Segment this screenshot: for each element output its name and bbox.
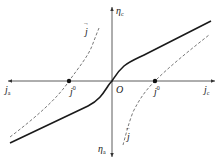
axis-label-eta-a: ηa (98, 143, 106, 155)
cathodic-partial-curve (123, 35, 209, 145)
anodic-partial-label: → j (83, 20, 89, 37)
exchange-current-cathodic-dot (153, 79, 157, 83)
axis-label-ja: ja (3, 84, 11, 96)
axis-label-eta-c: ηc (116, 5, 124, 17)
exchange-current-anodic-dot (67, 79, 71, 83)
origin-label: O (116, 84, 123, 95)
svg-text:j: j (125, 131, 130, 142)
svg-text:j: j (83, 26, 88, 37)
polarization-diagram: ja jc ηc ηa O j0 j0 → j ← j (0, 0, 221, 168)
axis-label-jc: jc (202, 84, 210, 96)
overall-polarization-curve (10, 21, 211, 143)
anodic-partial-curve (10, 28, 99, 137)
exchange-current-anodic-label: j0 (68, 85, 76, 97)
exchange-current-cathodic-label: j0 (152, 85, 160, 97)
